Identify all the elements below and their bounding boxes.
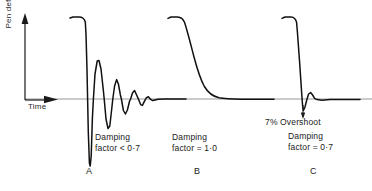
panel-b-annotation-line2: factor = 1·0	[172, 143, 217, 154]
panel-letter-c: C	[310, 166, 317, 177]
panel-letter-a: A	[86, 166, 92, 177]
up-arrow-icon	[22, 13, 29, 24]
figure-canvas	[0, 0, 372, 191]
panel-letter-b: B	[194, 166, 200, 177]
panel-c-annotation-line2: factor = 0·7	[288, 142, 333, 153]
x-axis-label: Time	[28, 102, 46, 113]
trace-c-optimally-damped	[282, 17, 360, 111]
panel-a-annotation-line2: factor < 0·7	[95, 143, 140, 154]
panel-c-annotation-line1: Damping	[288, 131, 323, 142]
panel-b-annotation-line1: Damping	[172, 132, 207, 143]
damping-figure: Pen deflection Time Damping factor < 0·7…	[0, 0, 372, 191]
trace-b-critically-damped	[168, 17, 274, 99]
y-axis-label: Pen deflection	[4, 0, 15, 29]
panel-c-overshoot-note: 7% Overshoot	[265, 117, 321, 128]
panel-a-annotation-line1: Damping	[95, 132, 130, 143]
